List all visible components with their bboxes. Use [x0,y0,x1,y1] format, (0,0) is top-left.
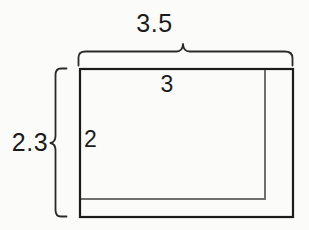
outer-height-label: 2.3 [8,130,52,155]
top-brace [79,44,293,66]
outer-width-label: 3.5 [0,11,309,36]
left-brace-path [51,69,67,217]
inner-width-label: 3 [152,73,182,96]
left-brace [51,69,67,217]
inner-height-label: 2 [84,128,102,151]
top-brace-path [79,44,293,66]
dimension-diagram: 3.5 2.3 3 2 [0,0,309,230]
outer-rectangle [80,69,293,217]
